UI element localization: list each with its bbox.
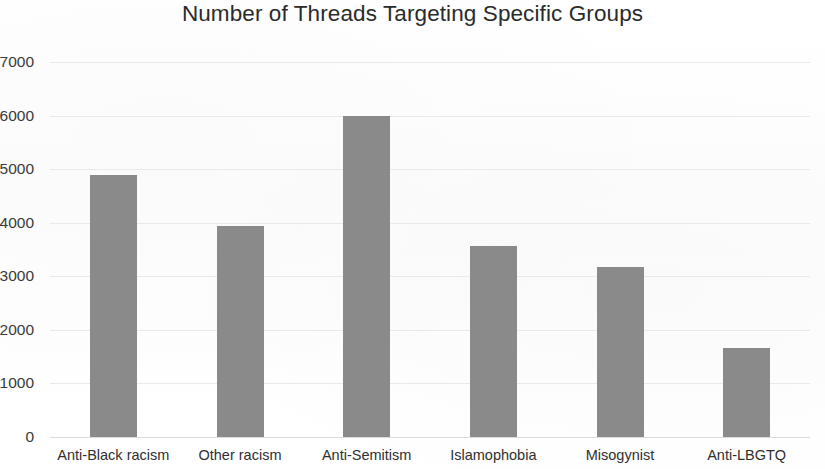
y-axis-tick-label: 3000 (0, 267, 34, 285)
bar (470, 246, 517, 437)
plot-area (50, 62, 810, 437)
x-axis-tick-label: Islamophobia (450, 447, 536, 463)
gridline (50, 62, 810, 63)
bar (723, 348, 770, 437)
gridline (50, 116, 810, 117)
y-axis-tick-label: 4000 (0, 214, 34, 232)
bar-chart: Number of Threads Targeting Specific Gro… (0, 0, 825, 469)
gridline (50, 330, 810, 331)
y-axis-tick-label: 5000 (0, 160, 34, 178)
bar (90, 175, 137, 438)
bar (343, 116, 390, 437)
gridline (50, 169, 810, 170)
x-axis-tick-label: Other racism (199, 447, 282, 463)
y-axis-tick-label: 6000 (0, 107, 34, 125)
y-axis-tick-label: 1000 (0, 374, 34, 392)
y-axis-tick-label: 0 (0, 428, 34, 446)
gridline (50, 437, 810, 438)
chart-title: Number of Threads Targeting Specific Gro… (0, 1, 825, 27)
x-axis-tick-label: Anti-LBGTQ (707, 447, 786, 463)
x-axis-tick-label: Anti-Semitism (322, 447, 411, 463)
x-axis-tick-label: Anti-Black racism (57, 447, 169, 463)
x-axis-tick-label: Misogynist (586, 447, 655, 463)
bar (597, 267, 644, 437)
gridline (50, 383, 810, 384)
y-axis-tick-label: 2000 (0, 321, 34, 339)
gridline (50, 276, 810, 277)
y-axis-tick-label: 7000 (0, 53, 34, 71)
gridline (50, 223, 810, 224)
bar (217, 226, 264, 437)
